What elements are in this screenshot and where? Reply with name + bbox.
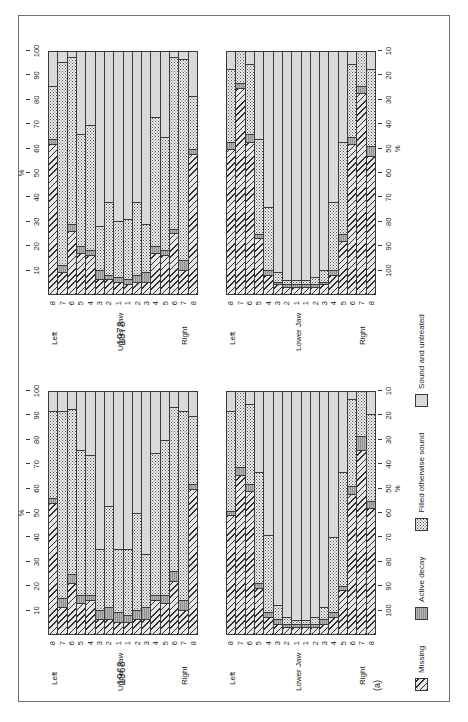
axis-tick bbox=[378, 487, 382, 488]
axis-tick-label: 20 bbox=[32, 242, 41, 250]
segment-filled-otherwise-sound bbox=[339, 141, 347, 233]
axis-tick bbox=[378, 123, 382, 124]
axis-tick bbox=[378, 98, 382, 99]
segment-missing bbox=[189, 488, 197, 633]
axis-tick-label: 40 bbox=[384, 460, 393, 468]
segment-active-decay bbox=[96, 269, 104, 279]
axis-tick bbox=[378, 172, 382, 173]
axis-tick-label: 70 bbox=[384, 533, 393, 541]
segment-sound-and-untreated bbox=[161, 392, 169, 440]
segment-missing bbox=[189, 153, 197, 293]
tooth-label: 8 bbox=[367, 297, 376, 351]
segment-missing bbox=[170, 580, 178, 633]
segment-active-decay bbox=[348, 136, 356, 143]
segment-sound-and-untreated bbox=[339, 392, 347, 472]
tooth-label: 2 bbox=[104, 297, 113, 351]
axis-tick-label: 90 bbox=[384, 582, 393, 590]
segment-sound-and-untreated bbox=[58, 392, 66, 411]
axis-tick-label: 40 bbox=[384, 120, 393, 128]
tooth-label: 2 bbox=[282, 637, 291, 691]
bar-row bbox=[283, 52, 292, 294]
segment-missing bbox=[68, 231, 76, 294]
segment-filled-otherwise-sound bbox=[320, 269, 328, 281]
segment-filled-otherwise-sound bbox=[274, 604, 282, 619]
segment-missing bbox=[124, 284, 132, 294]
segment-filled-otherwise-sound bbox=[292, 619, 300, 624]
segment-filled-otherwise-sound bbox=[339, 471, 347, 585]
segment-sound-and-untreated bbox=[142, 52, 150, 224]
segment-filled-otherwise-sound bbox=[283, 279, 291, 284]
tooth-label: 5 bbox=[339, 637, 348, 691]
segment-sound-and-untreated bbox=[77, 52, 85, 134]
axis-tick bbox=[378, 609, 382, 610]
segment-filled-otherwise-sound bbox=[179, 59, 187, 260]
segment-filled-otherwise-sound bbox=[255, 139, 263, 233]
segment-active-decay bbox=[105, 607, 113, 619]
side-label-right-1968-upper: Right bbox=[180, 666, 189, 685]
segment-sound-and-untreated bbox=[124, 392, 132, 549]
axis-tick bbox=[26, 196, 30, 197]
segment-filled-otherwise-sound bbox=[302, 619, 310, 624]
tooth-label: 2 bbox=[310, 297, 319, 351]
axis-tick-label: 100 bbox=[384, 264, 393, 277]
axis-tick-label: 80 bbox=[32, 95, 41, 103]
bar-row bbox=[58, 52, 67, 294]
bar-row bbox=[105, 52, 114, 294]
segment-active-decay bbox=[189, 148, 197, 153]
bar-stack-group bbox=[227, 52, 375, 294]
bar-row bbox=[283, 392, 292, 634]
axis-tick-label: 70 bbox=[32, 120, 41, 128]
axis-tick bbox=[26, 585, 30, 586]
segment-missing bbox=[348, 143, 356, 293]
segment-sound-and-untreated bbox=[264, 392, 272, 535]
axis-tick bbox=[26, 463, 30, 464]
bar-row bbox=[357, 52, 366, 294]
segment-sound-and-untreated bbox=[283, 52, 291, 279]
segment-active-decay bbox=[179, 260, 187, 270]
segment-active-decay bbox=[367, 500, 375, 507]
segment-missing bbox=[292, 626, 300, 633]
jaw-label-1968-lower: Lower Jaw bbox=[294, 652, 303, 690]
tooth-label: 8 bbox=[367, 637, 376, 691]
segment-sound-and-untreated bbox=[311, 392, 319, 617]
bar-row bbox=[227, 392, 236, 634]
segment-missing bbox=[68, 583, 76, 634]
bar-row bbox=[189, 392, 197, 634]
segment-missing bbox=[86, 255, 94, 294]
bar-row bbox=[348, 52, 357, 294]
axis-tick bbox=[26, 269, 30, 270]
axis-percent-symbol: % bbox=[17, 169, 26, 176]
tooth-label: 5 bbox=[161, 297, 170, 351]
segment-filled-otherwise-sound bbox=[151, 117, 159, 245]
segment-sound-and-untreated bbox=[105, 52, 113, 202]
legend-swatch-active-decay-icon bbox=[415, 606, 428, 619]
bar-row bbox=[274, 392, 283, 634]
segment-filled-otherwise-sound bbox=[236, 392, 244, 467]
axis-tick-label: 30 bbox=[384, 95, 393, 103]
bar-row bbox=[68, 392, 77, 634]
axis-tick-label: 10 bbox=[384, 46, 393, 54]
axis-tick-label: 100 bbox=[32, 384, 41, 397]
chart-1968-upper-jaw bbox=[48, 391, 198, 635]
tooth-label: 6 bbox=[245, 297, 254, 351]
segment-filled-otherwise-sound bbox=[189, 416, 197, 484]
segment-sound-and-untreated bbox=[227, 52, 235, 69]
bar-row bbox=[96, 392, 105, 634]
segment-filled-otherwise-sound bbox=[133, 202, 141, 275]
segment-active-decay bbox=[105, 274, 113, 279]
segment-sound-and-untreated bbox=[151, 52, 159, 117]
segment-missing bbox=[105, 279, 113, 294]
segment-sound-and-untreated bbox=[320, 52, 328, 270]
segment-missing bbox=[329, 274, 337, 293]
bar-row bbox=[49, 392, 58, 634]
segment-filled-otherwise-sound bbox=[86, 454, 94, 594]
segment-active-decay bbox=[170, 228, 178, 233]
bar-row bbox=[96, 52, 105, 294]
segment-sound-and-untreated bbox=[292, 52, 300, 279]
bar-row bbox=[255, 52, 264, 294]
segment-sound-and-untreated bbox=[133, 52, 141, 202]
bar-row bbox=[161, 392, 170, 634]
segment-sound-and-untreated bbox=[142, 392, 150, 554]
axis-ticks: 1020304050%60708090100 bbox=[26, 391, 46, 635]
axis-tick bbox=[26, 414, 30, 415]
